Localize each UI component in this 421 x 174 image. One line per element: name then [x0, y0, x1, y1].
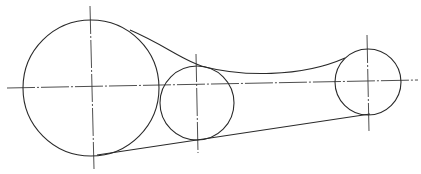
medium-pulley-vertical-centerline	[196, 54, 198, 153]
centerlines	[7, 6, 418, 169]
belt-pulley-diagram	[0, 0, 421, 174]
large-pulley-vertical-centerline	[90, 6, 94, 169]
pulleys	[23, 20, 401, 156]
horizontal-centerline	[7, 80, 418, 88]
belt	[97, 30, 370, 155]
belt-lower-tangent-line	[97, 114, 370, 155]
belt-upper-curve	[130, 30, 345, 74]
